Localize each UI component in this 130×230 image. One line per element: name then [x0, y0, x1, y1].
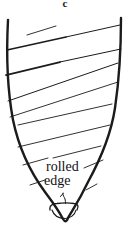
rolled-edge-annotation: rolled edge	[46, 160, 79, 187]
vessel-outline	[7, 18, 121, 221]
hatch-line	[8, 63, 118, 101]
hatch-line	[18, 104, 112, 125]
leader-line	[61, 193, 66, 204]
figure-panel: c rolled edge	[0, 0, 130, 230]
vessel-drawing	[0, 0, 130, 230]
hatch-line	[27, 26, 56, 35]
hatch-line	[60, 49, 121, 62]
hatch-line	[18, 125, 110, 147]
figure-letter-label: c	[0, 0, 130, 9]
hatch-line	[7, 37, 66, 50]
annotation-line1: rolled	[46, 159, 79, 174]
hatch-line	[53, 146, 101, 158]
leader-curve	[63, 193, 66, 204]
hatch-line	[10, 82, 118, 117]
hatch-line	[66, 25, 120, 37]
annotation-line2: edge	[44, 174, 79, 188]
hatch-line	[84, 160, 103, 168]
hatch-line	[6, 62, 60, 75]
